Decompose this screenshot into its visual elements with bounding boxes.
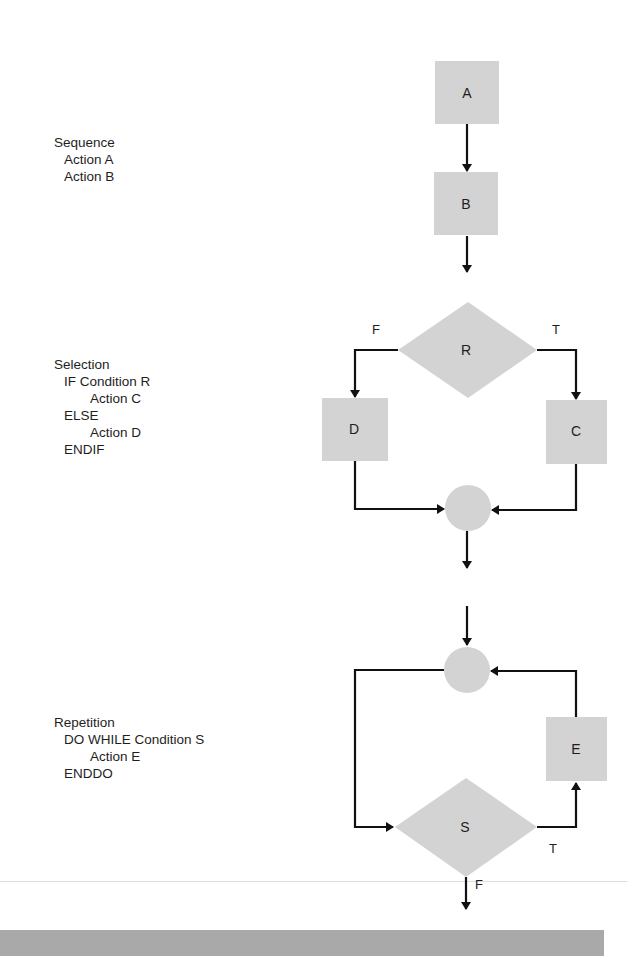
flowchart-diagram: A B R F T D C S T E: [0, 0, 627, 956]
condition-r-label: R: [461, 342, 471, 358]
selection-true-label: T: [552, 322, 560, 337]
arrow-c-to-merge: [492, 464, 576, 510]
arrow-r-to-d: [355, 350, 398, 397]
action-d-label: D: [349, 421, 359, 437]
selection-false-label: F: [372, 322, 380, 337]
loop-junction-connector: [444, 647, 490, 693]
action-a-label: A: [462, 85, 472, 101]
selection-flowchart: R F T D C: [322, 302, 607, 568]
action-e-label: E: [571, 741, 580, 757]
repetition-true-label: T: [549, 841, 557, 856]
arrow-e-to-junction: [491, 671, 576, 717]
action-b-label: B: [461, 196, 470, 212]
arrow-s-to-e: [537, 783, 576, 827]
arrow-r-to-c: [537, 350, 576, 399]
selection-merge-connector: [445, 485, 491, 531]
repetition-false-label: F: [475, 877, 483, 892]
arrow-d-to-merge: [355, 461, 444, 509]
action-c-label: C: [571, 423, 581, 439]
repetition-flowchart: S T E F: [355, 606, 607, 909]
sequence-flowchart: A B: [434, 61, 499, 272]
condition-s-label: S: [460, 819, 469, 835]
